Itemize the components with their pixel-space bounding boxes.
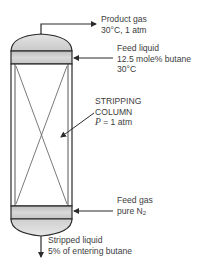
feed-gas-detail: pure N2: [117, 206, 153, 219]
feed-gas-detail-subscript: 2: [143, 210, 146, 216]
column-drawing: [0, 0, 203, 270]
feed-liquid-label: Feed liquid 12.5 mole% butane 30°C: [117, 43, 191, 75]
column-label-line-2: COLUMN: [95, 107, 141, 118]
product-gas-title: Product gas: [101, 14, 147, 25]
feed-liquid-title: Feed liquid: [117, 43, 191, 54]
product-gas-detail: 30°C, 1 atm: [101, 25, 147, 36]
top-dome: [11, 34, 72, 51]
stripped-liquid-label: Stripped liquid 5% of entering butane: [48, 235, 132, 256]
product-gas-label: Product gas 30°C, 1 atm: [101, 14, 147, 35]
stripped-liquid-detail: 5% of entering butane: [48, 246, 132, 257]
feed-gas-detail-prefix: pure N: [117, 206, 143, 216]
product-gas-arrow: [41, 24, 96, 34]
feed-gas-label: Feed gas pure N2: [117, 195, 153, 218]
pressure-value: = 1 atm: [101, 117, 132, 127]
bottom-dome: [11, 219, 72, 236]
column-pressure: P = 1 atm: [95, 117, 141, 128]
feed-liquid-detail-1: 12.5 mole% butane: [117, 54, 191, 65]
column-label: STRIPPING COLUMN P = 1 atm: [95, 96, 141, 128]
bottom-band: [11, 206, 72, 219]
feed-liquid-detail-2: 30°C: [117, 64, 191, 75]
feed-gas-title: Feed gas: [117, 195, 153, 206]
column-label-line-1: STRIPPING: [95, 96, 141, 107]
top-band: [11, 51, 72, 64]
stripped-liquid-title: Stripped liquid: [48, 235, 132, 246]
